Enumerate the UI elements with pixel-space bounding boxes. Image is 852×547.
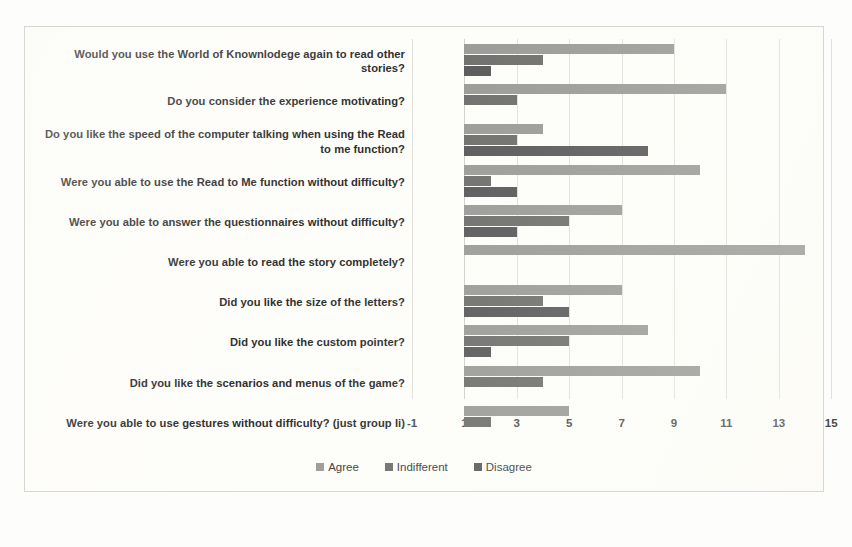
x-tick-15: 15 [825, 417, 838, 429]
bar-group [25, 84, 823, 118]
legend-label: Agree [328, 461, 359, 473]
gridline-15 [831, 39, 832, 399]
bar-indifferent [464, 417, 490, 427]
bar-group [25, 285, 823, 319]
bar-disagree [464, 307, 569, 317]
bar-agree [464, 285, 621, 295]
bar-indifferent [464, 296, 543, 306]
bar-row: Were you able to use gestures without di… [25, 403, 823, 443]
bar-agree [464, 325, 647, 335]
legend-swatch-icon [385, 463, 393, 471]
legend-label: Disagree [486, 461, 532, 473]
legend-swatch-icon [474, 463, 482, 471]
bar-group [25, 205, 823, 239]
bar-indifferent [464, 377, 543, 387]
bar-agree [464, 406, 569, 416]
bar-agree [464, 84, 726, 94]
bar-agree [464, 124, 543, 134]
bar-row: Were you able to use the Read to Me func… [25, 162, 823, 202]
bar-disagree [464, 227, 516, 237]
chart-legend: AgreeIndifferentDisagree [25, 461, 823, 473]
bar-indifferent [464, 95, 516, 105]
bar-indifferent [464, 336, 569, 346]
bar-disagree [464, 146, 647, 156]
bar-row: Did you like the size of the letters? [25, 282, 823, 322]
legend-label: Indifferent [397, 461, 448, 473]
legend-item-indifferent[interactable]: Indifferent [385, 461, 448, 473]
bar-agree [464, 245, 805, 255]
bar-agree [464, 44, 674, 54]
bar-indifferent [464, 176, 490, 186]
bar-group [25, 406, 823, 440]
bar-row: Do you like the speed of the computer ta… [25, 121, 823, 161]
bar-group [25, 44, 823, 78]
bar-disagree [464, 187, 516, 197]
bar-row: Did you like the scenarios and menus of … [25, 363, 823, 403]
bar-row: Would you use the World of Knownlodege a… [25, 41, 823, 81]
bar-disagree [464, 66, 490, 76]
bar-row: Did you like the custom pointer? [25, 322, 823, 362]
bar-row: Were you able to answer the questionnair… [25, 202, 823, 242]
bar-disagree [464, 347, 490, 357]
bar-indifferent [464, 55, 543, 65]
bar-group [25, 245, 823, 279]
bar-group [25, 124, 823, 158]
bar-agree [464, 205, 621, 215]
bar-group [25, 366, 823, 400]
bar-indifferent [464, 135, 516, 145]
legend-item-agree[interactable]: Agree [316, 461, 359, 473]
bar-group [25, 165, 823, 199]
bar-group [25, 325, 823, 359]
bar-row: Do you consider the experience motivatin… [25, 81, 823, 121]
plot-area: -113579111315 Would you use the World of… [25, 27, 823, 491]
bar-agree [464, 366, 700, 376]
bar-row: Were you able to read the story complete… [25, 242, 823, 282]
chart-container: -113579111315 Would you use the World of… [24, 26, 824, 492]
bar-agree [464, 165, 700, 175]
bar-indifferent [464, 216, 569, 226]
legend-item-disagree[interactable]: Disagree [474, 461, 532, 473]
legend-swatch-icon [316, 463, 324, 471]
